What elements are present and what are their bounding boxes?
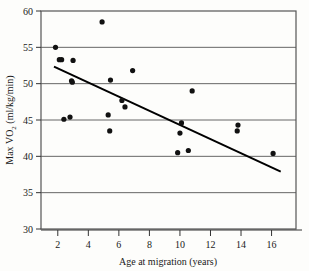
data-point [70,80,75,85]
scatter-plot: 246810121416 30354045505560 Age at migra… [0,0,309,271]
data-point [67,114,72,119]
data-points [53,19,276,156]
x-tick-label: 2 [55,239,60,250]
data-point [53,45,58,50]
y-tick-label: 45 [23,115,33,126]
data-point [61,117,66,122]
data-point [177,130,182,135]
data-point [235,128,240,133]
x-axis-title: Age at migration (years) [119,256,217,268]
data-point [108,77,113,82]
data-point [130,68,135,73]
data-point [186,148,191,153]
data-point [99,19,104,24]
y-axis-title-units: (ml/kg/min) [4,75,16,126]
data-point [179,120,184,125]
y-tick-label: 30 [23,224,33,235]
x-axis-ticks [41,230,302,236]
data-point [190,88,195,93]
y-tick-label: 55 [23,42,33,53]
y-axis-tick-labels: 30354045505560 [23,6,33,235]
x-tick-label: 6 [116,239,121,250]
data-point [119,98,124,103]
data-point [107,128,112,133]
y-axis-title-main: Max VO [4,130,15,165]
data-point [70,58,75,63]
data-point [270,151,275,156]
data-point [175,150,180,155]
x-tick-label: 4 [86,239,91,250]
data-point [122,104,127,109]
y-tick-label: 40 [23,151,33,162]
data-point [59,57,64,62]
y-tick-label: 50 [23,78,33,89]
x-axis-tick-labels: 246810121416 [55,239,276,250]
y-axis-title: Max VO2 (ml/kg/min) [4,75,18,164]
x-tick-label: 12 [205,239,215,250]
data-point [106,112,111,117]
trend-line [54,67,281,172]
regression-line [54,67,281,172]
data-point [235,122,240,127]
y-axis-ticks [36,11,41,229]
y-tick-label: 35 [23,187,33,198]
x-tick-label: 16 [267,239,277,250]
x-tick-label: 8 [147,239,152,250]
x-tick-label: 10 [175,239,185,250]
x-tick-label: 14 [236,239,246,250]
y-tick-label: 60 [23,6,33,17]
chart-figure: 246810121416 30354045505560 Age at migra… [0,0,309,271]
